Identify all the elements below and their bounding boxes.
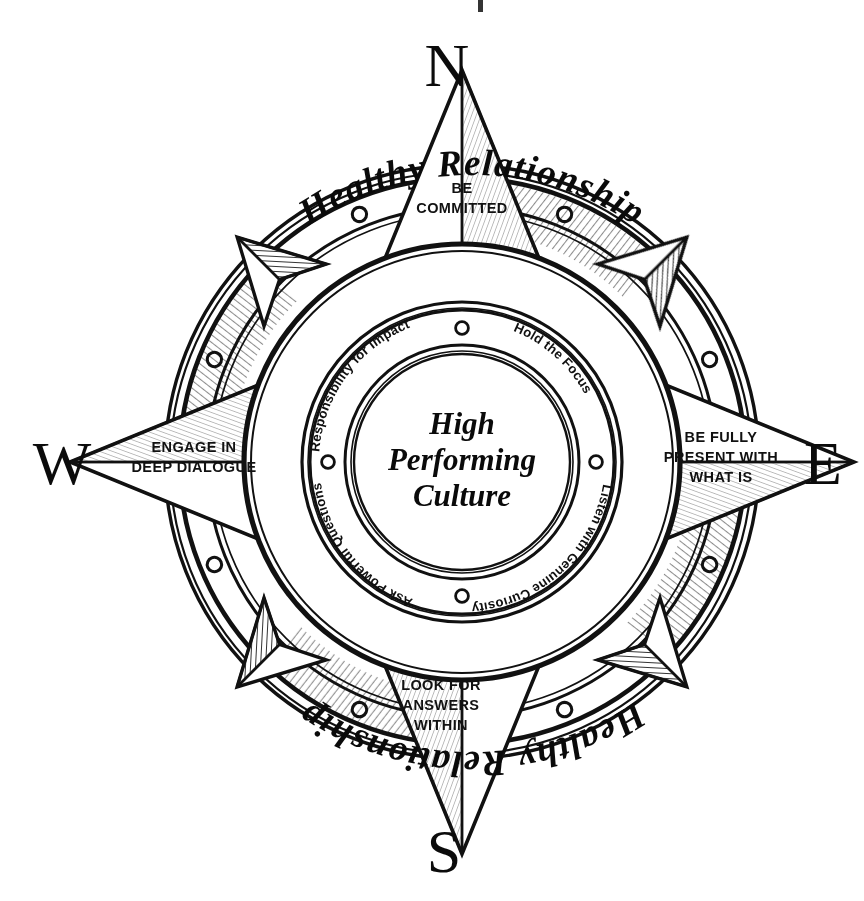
cardinal-letter-west: W: [33, 429, 92, 497]
svg-text:BE: BE: [452, 180, 473, 196]
cardinal-letter-south: S: [427, 817, 461, 885]
svg-text:ENGAGE IN: ENGAGE IN: [152, 439, 237, 455]
center-line-1: High: [428, 406, 494, 441]
svg-text:ANSWERS: ANSWERS: [403, 697, 480, 713]
rivet-icon: [700, 350, 719, 369]
cardinal-letter-east: E: [804, 429, 842, 497]
svg-text:WHAT IS: WHAT IS: [690, 469, 753, 485]
svg-text:BE FULLY: BE FULLY: [685, 429, 758, 445]
center-line-2: Performing: [387, 442, 536, 477]
svg-text:DEEP DIALOGUE: DEEP DIALOGUE: [132, 459, 257, 475]
center-line-3: Culture: [413, 478, 511, 513]
svg-text:PRESENT WITH: PRESENT WITH: [664, 449, 778, 465]
compass-diagram: Healthy Relationship Healthy Relationshi…: [0, 0, 864, 901]
rivet-icon: [555, 700, 574, 719]
center-hub: High Performing Culture: [354, 354, 570, 570]
cropped-edge-mark: [478, 0, 483, 12]
svg-text:COMMITTED: COMMITTED: [416, 200, 507, 216]
cardinal-letter-north: N: [425, 31, 470, 99]
rivet-icon: [205, 555, 224, 574]
svg-text:LOOK FOR: LOOK FOR: [401, 677, 481, 693]
svg-text:WITHIN: WITHIN: [414, 717, 468, 733]
compass-rose-illustration: Healthy Relationship Healthy Relationshi…: [0, 0, 864, 901]
